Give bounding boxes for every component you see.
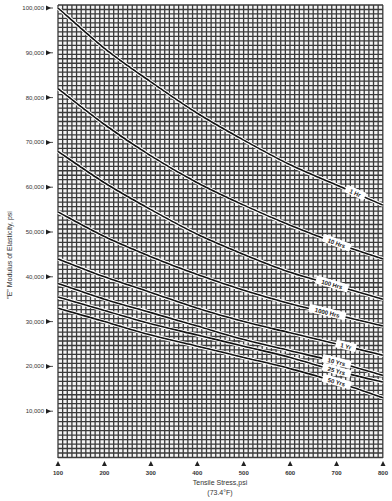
- plot-grid: [58, 5, 383, 458]
- x-tick-marker-icon: [381, 461, 386, 466]
- y-tick-label: 10,000: [26, 408, 45, 414]
- x-axis-title: Tensile Stress,psi: [193, 479, 248, 487]
- x-tick-label: 200: [99, 470, 110, 476]
- x-tick-marker-icon: [288, 461, 293, 466]
- x-tick-label: 500: [239, 470, 250, 476]
- x-tick-label: 600: [285, 470, 296, 476]
- x-axis: 100200300400500600700800: [53, 461, 389, 476]
- y-tick-label: 20,000: [26, 363, 45, 369]
- x-tick-label: 100: [53, 470, 64, 476]
- y-tick-label: 80,000: [26, 95, 45, 101]
- y-tick-label: 90,000: [26, 50, 45, 56]
- y-tick-label: 50,000: [26, 229, 45, 235]
- x-tick-marker-icon: [102, 461, 107, 466]
- x-tick-marker-icon: [148, 461, 153, 466]
- y-tick-label: 30,000: [26, 319, 45, 325]
- creep-modulus-chart: 1 Hr10 Hrs100 Hrs1000 Hrs1 Yr10 Yrs25 Yr…: [0, 0, 392, 501]
- y-tick-label: 100,000: [22, 5, 44, 11]
- y-axis-title: "E" Modulus of Elasticity, psi: [6, 211, 14, 299]
- y-tick-label: 70,000: [26, 139, 45, 145]
- y-tick-label: 60,000: [26, 184, 45, 190]
- x-tick-label: 700: [332, 470, 343, 476]
- x-tick-label: 800: [378, 470, 389, 476]
- x-tick-label: 300: [146, 470, 157, 476]
- x-tick-marker-icon: [56, 461, 61, 466]
- y-tick-label: 40,000: [26, 274, 45, 280]
- y-axis: 10,00020,00030,00040,00050,00060,00070,0…: [22, 5, 53, 414]
- x-axis-subtitle: (73.4°F): [207, 489, 232, 497]
- x-tick-marker-icon: [195, 461, 200, 466]
- x-tick-label: 400: [192, 470, 203, 476]
- x-tick-marker-icon: [241, 461, 246, 466]
- x-tick-marker-icon: [334, 461, 339, 466]
